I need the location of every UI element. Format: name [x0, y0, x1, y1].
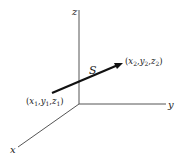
z-axis-label: z: [71, 6, 78, 17]
end-point-label: (x2,y2,z2): [125, 56, 163, 67]
x-axis-label: x: [10, 144, 16, 155]
vector-s: [52, 65, 118, 93]
y-axis-label: y: [167, 99, 174, 110]
3d-vector-diagram: z y x S (x2,y2,z2) (x1,y1,z1): [0, 0, 186, 164]
x-axis: [18, 104, 79, 147]
vector-label: S: [89, 64, 97, 77]
start-point-label: (x1,y1,z1): [26, 96, 64, 107]
